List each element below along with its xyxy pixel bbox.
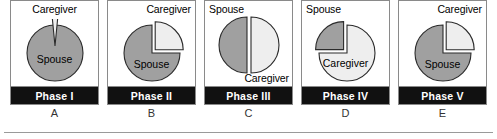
panel-letter-a: A — [51, 107, 58, 119]
bottom-divider — [4, 132, 493, 133]
pie-area-a: Caregiver Spouse — [11, 1, 98, 86]
pie-area-c: Spouse Caregiver — [205, 1, 292, 86]
spouse-slice-d — [315, 22, 343, 50]
phase-label-a: Phase I — [35, 90, 73, 102]
phase-panel-b: Caregiver Spouse Phase II B — [107, 0, 196, 122]
phase-label-d: Phase IV — [323, 90, 368, 102]
phase-bar-a: Phase I — [11, 86, 98, 104]
spouse-label-d: Spouse — [306, 4, 341, 15]
pie-chart-a — [19, 19, 91, 85]
spouse-label-a: Spouse — [11, 53, 98, 65]
spouse-slice-c — [219, 17, 247, 73]
phase-panel-e: Caregiver Spouse Phase V E — [398, 0, 487, 122]
phase-panels-row: Caregiver Spouse Phase I A Car — [0, 0, 497, 122]
panel-letter-d: D — [342, 107, 350, 119]
phase-card-a: Caregiver Spouse Phase I — [10, 0, 99, 105]
caregiver-slice-b — [155, 22, 183, 50]
phase-label-e: Phase V — [421, 90, 463, 102]
phase-card-c: Spouse Caregiver Phase III — [204, 0, 293, 105]
spouse-label-b: Spouse — [108, 58, 195, 70]
caregiver-slice-c — [251, 17, 279, 73]
panel-letter-e: E — [439, 107, 446, 119]
phase-bar-c: Phase III — [205, 86, 292, 104]
caregiver-label-d: Caregiver — [302, 57, 389, 69]
phase-panel-d: Spouse Caregiver Phase IV D — [301, 0, 390, 122]
caregiver-label-e: Caregiver — [437, 4, 482, 15]
phase-card-e: Caregiver Spouse Phase V — [398, 0, 487, 105]
phase-bar-d: Phase IV — [302, 86, 389, 104]
pie-chart-d — [309, 16, 383, 86]
phase-label-b: Phase II — [131, 90, 172, 102]
phase-card-b: Caregiver Spouse Phase II — [107, 0, 196, 105]
pie-area-b: Caregiver Spouse — [108, 1, 195, 86]
spouse-label-e: Spouse — [399, 58, 486, 70]
phase-label-c: Phase III — [226, 90, 270, 102]
spouse-label-c: Spouse — [209, 4, 244, 15]
caregiver-label-c: Caregiver — [244, 73, 289, 84]
phase-bar-e: Phase V — [399, 86, 486, 104]
phase-panel-a: Caregiver Spouse Phase I A — [10, 0, 99, 122]
phase-bar-b: Phase II — [108, 86, 195, 104]
pie-area-e: Caregiver Spouse — [399, 1, 486, 86]
pie-chart-e — [407, 17, 479, 85]
panel-letter-b: B — [148, 107, 155, 119]
pie-area-d: Spouse Caregiver — [302, 1, 389, 86]
caregiver-label-a: Caregiver — [11, 4, 98, 15]
pie-chart-c — [212, 15, 286, 75]
pie-chart-b — [116, 17, 188, 85]
caregiver-slice-e — [446, 22, 474, 50]
phase-panel-c: Spouse Caregiver Phase III C — [204, 0, 293, 122]
caregiver-label-b: Caregiver — [146, 4, 191, 15]
phase-card-d: Spouse Caregiver Phase IV — [301, 0, 390, 105]
panel-letter-c: C — [245, 107, 253, 119]
